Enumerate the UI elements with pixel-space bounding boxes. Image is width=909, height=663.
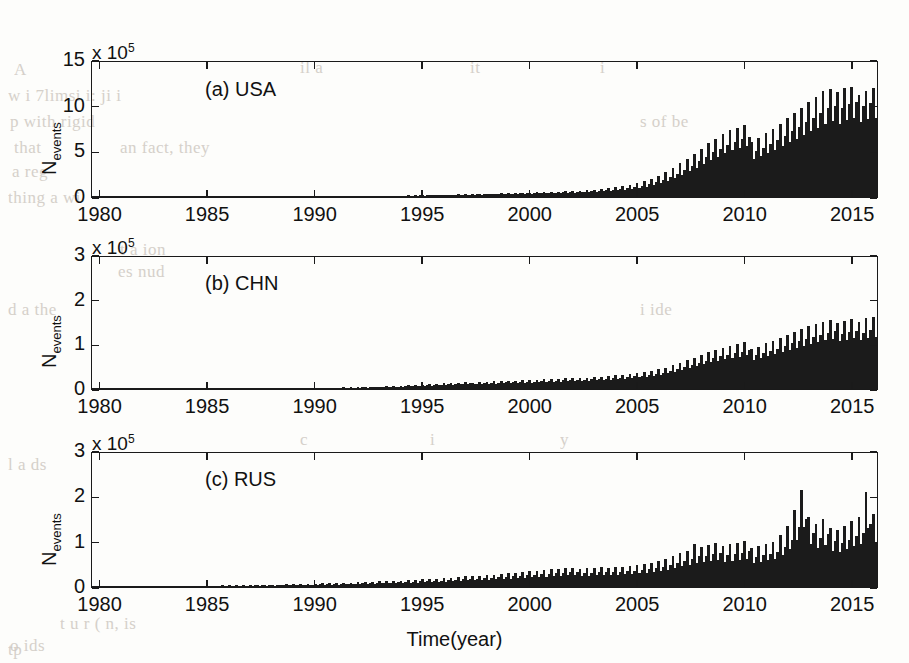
x-tick-mark-top <box>529 453 531 460</box>
bleed-text: y <box>560 430 569 450</box>
x-tick-mark <box>636 190 638 197</box>
y-tick-mark <box>92 542 99 544</box>
x-tick-mark <box>421 580 423 587</box>
bleed-text: A <box>14 60 27 80</box>
x-tick-mark-top <box>744 62 746 69</box>
x-tick-label: 2005 <box>597 203 677 226</box>
x-tick-label: 1985 <box>167 203 247 226</box>
x-tick-label: 2015 <box>812 203 892 226</box>
x-tick-mark-top <box>99 62 101 69</box>
y-tick-label: 1 <box>39 530 85 553</box>
x-tick-label: 2010 <box>705 395 785 418</box>
x-tick-mark <box>314 190 316 197</box>
x-tick-mark <box>744 580 746 587</box>
x-tick-mark-top <box>421 453 423 460</box>
y-tick-mark-right <box>870 389 877 391</box>
y-tick-mark <box>92 300 99 302</box>
bleed-text: c <box>300 430 308 450</box>
x-tick-mark-top <box>636 62 638 69</box>
x-tick-mark <box>206 382 208 389</box>
x-tick-mark-top <box>529 257 531 264</box>
x-tick-mark <box>421 382 423 389</box>
x-tick-label: 1985 <box>167 395 247 418</box>
y-tick-mark-right <box>870 197 877 199</box>
x-tick-label: 2015 <box>812 593 892 616</box>
y-tick-mark-right <box>870 152 877 154</box>
x-tick-mark <box>206 190 208 197</box>
x-tick-mark <box>99 580 101 587</box>
x-tick-mark <box>99 190 101 197</box>
x-tick-mark-top <box>744 453 746 460</box>
x-tick-label: 1995 <box>382 203 462 226</box>
y-tick-mark-right <box>870 451 877 453</box>
x-tick-mark-top <box>851 257 853 264</box>
x-tick-mark <box>851 382 853 389</box>
panel-label-rus: (c) RUS <box>205 468 276 491</box>
x-tick-mark <box>99 382 101 389</box>
y-tick-label: 3 <box>39 243 85 266</box>
y-tick-mark-right <box>870 587 877 589</box>
x-tick-mark-top <box>636 453 638 460</box>
x-tick-mark-top <box>206 62 208 69</box>
x-tick-mark <box>636 580 638 587</box>
x-tick-label: 2000 <box>490 395 570 418</box>
x-tick-mark-top <box>529 62 531 69</box>
y-tick-label: 10 <box>39 94 85 117</box>
x-tick-mark-top <box>206 257 208 264</box>
x-tick-mark-top <box>99 257 101 264</box>
x-tick-label: 1980 <box>60 593 140 616</box>
y-tick-label: 15 <box>39 48 85 71</box>
x-tick-mark-top <box>744 257 746 264</box>
x-tick-mark <box>314 580 316 587</box>
x-tick-mark <box>529 580 531 587</box>
x-tick-mark-top <box>99 453 101 460</box>
y-tick-label: 2 <box>39 288 85 311</box>
y-tick-mark <box>92 345 99 347</box>
x-tick-label: 1980 <box>60 395 140 418</box>
x-tick-mark <box>206 580 208 587</box>
x-tick-label: 2000 <box>490 203 570 226</box>
bleed-text: i <box>430 430 435 450</box>
x-tick-mark <box>636 382 638 389</box>
y-tick-mark <box>92 106 99 108</box>
y-tick-label: 5 <box>39 139 85 162</box>
y-tick-mark <box>92 197 99 199</box>
y-tick-mark-right <box>870 497 877 499</box>
x-tick-mark-top <box>421 257 423 264</box>
x-tick-label: 1990 <box>275 203 355 226</box>
x-tick-mark <box>314 382 316 389</box>
x-tick-mark-top <box>206 453 208 460</box>
x-tick-label: 1995 <box>382 395 462 418</box>
x-tick-mark <box>529 382 531 389</box>
y-tick-mark-right <box>870 345 877 347</box>
x-tick-label: 2005 <box>597 395 677 418</box>
panel-label-chn: (b) CHN <box>205 272 278 295</box>
y-tick-label: 1 <box>39 332 85 355</box>
x-tick-mark <box>744 382 746 389</box>
x-tick-label: 2010 <box>705 203 785 226</box>
y-tick-mark-right <box>870 255 877 257</box>
y-tick-mark <box>92 497 99 499</box>
y-tick-mark <box>92 152 99 154</box>
x-tick-mark-top <box>636 257 638 264</box>
x-tick-mark-top <box>314 62 316 69</box>
x-axis-label: Time(year) <box>0 628 909 651</box>
x-tick-mark <box>744 190 746 197</box>
x-tick-mark <box>851 580 853 587</box>
x-tick-mark-top <box>851 453 853 460</box>
y-tick-mark-right <box>870 106 877 108</box>
x-tick-label: 1990 <box>275 395 355 418</box>
x-tick-mark <box>529 190 531 197</box>
x-tick-mark <box>851 190 853 197</box>
y-tick-label: 3 <box>39 439 85 462</box>
y-tick-mark <box>92 389 99 391</box>
y-tick-mark-right <box>870 60 877 62</box>
y-tick-label: 2 <box>39 484 85 507</box>
y-tick-mark-right <box>870 300 877 302</box>
x-tick-label: 2015 <box>812 395 892 418</box>
y-tick-mark-right <box>870 542 877 544</box>
x-tick-label: 2005 <box>597 593 677 616</box>
panel-label-usa: (a) USA <box>205 78 276 101</box>
x-tick-label: 1995 <box>382 593 462 616</box>
figure-root: Aw i 7limsi i: ji ip with rigidthatan fa… <box>0 0 909 663</box>
